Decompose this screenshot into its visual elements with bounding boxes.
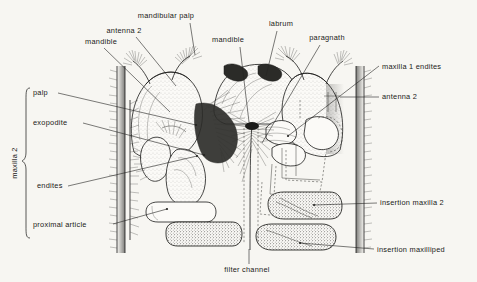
insertion-maxilla-2-blob bbox=[268, 192, 342, 219]
label-antenna-2-right: antenna 2 bbox=[382, 92, 417, 101]
label-mandible-right: mandible bbox=[212, 35, 244, 44]
leader-mandibular-palp bbox=[190, 23, 195, 55]
insertion-maxilliped-blob bbox=[256, 224, 336, 250]
label-palp: palp bbox=[33, 88, 48, 97]
endites-left bbox=[166, 149, 205, 206]
body-wall-left bbox=[109, 66, 125, 253]
label-exopodite: exopodite bbox=[33, 118, 67, 127]
label-insertion-maxilla-2: insertion maxilla 2 bbox=[380, 198, 444, 207]
label-paragnath: paragnath bbox=[309, 33, 345, 42]
label-mandible-left: mandible bbox=[85, 37, 117, 46]
specimen-drawing bbox=[109, 46, 372, 253]
maxilla-2-group-label: maxilla 2 bbox=[10, 147, 19, 178]
antenna-2-left bbox=[123, 50, 150, 84]
insertion-block-left bbox=[166, 222, 242, 246]
maxilla-2-brace bbox=[22, 88, 30, 238]
label-proximal-article: proximal article bbox=[33, 220, 87, 229]
label-insertion-maxilliped: insertion maxilliped bbox=[377, 245, 445, 254]
figure-canvas: maxilla 2 bbox=[0, 0, 477, 282]
label-endites: endites bbox=[37, 181, 63, 190]
label-filter-channel: filter channel bbox=[224, 265, 270, 274]
body-wall-right bbox=[356, 66, 372, 253]
label-maxilla-1-endites: maxilla 1 endites bbox=[382, 62, 441, 71]
label-mandibular-palp: mandibular palp bbox=[138, 11, 194, 20]
anatomical-figure: maxilla 2 bbox=[0, 0, 477, 282]
label-antenna-2-top: antenna 2 bbox=[106, 26, 141, 35]
label-labrum: labrum bbox=[269, 19, 293, 28]
